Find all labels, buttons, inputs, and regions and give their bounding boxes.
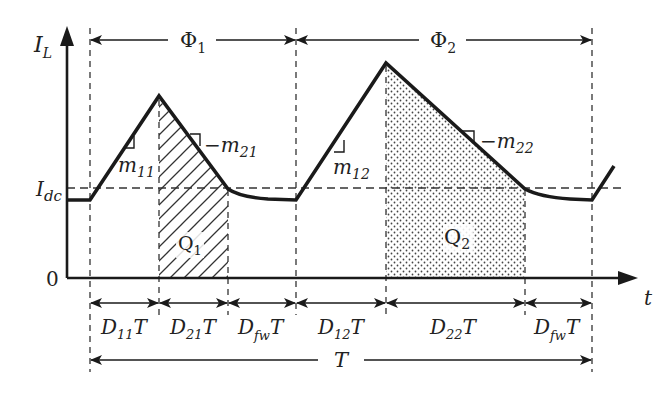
y-axis-arrow-icon (60, 26, 74, 46)
duration-d12-label: D12T (317, 315, 366, 342)
period-label: T (334, 348, 350, 372)
y-axis-label: IL (33, 32, 52, 61)
duration-d22-label: D22T (429, 315, 478, 342)
origin-label: 0 (46, 267, 59, 291)
duration-d21-label: D21T (169, 315, 218, 342)
x-axis-arrow-icon (618, 271, 638, 285)
slope-m11-label: m11 (118, 153, 155, 180)
duration-d11-label: D11T (100, 315, 149, 342)
slope-m22-label: −m22 (480, 129, 534, 156)
phase-2-label: Φ2 (430, 28, 456, 56)
phase-1-label: Φ1 (180, 28, 206, 56)
duration-dfw-label-1: DfwT (237, 315, 285, 343)
x-axis-label: t (644, 286, 653, 310)
slope-m21-label: −m21 (204, 133, 258, 160)
inductor-current-diagram: IL Idc 0 t Φ1 Φ2 m11 −m21 m12 −m22 Q1 Q2… (0, 0, 665, 393)
idc-label: Idc (35, 177, 63, 205)
duration-dfw-label-2: DfwT (533, 315, 581, 343)
slope-m12-label: m12 (333, 155, 370, 182)
